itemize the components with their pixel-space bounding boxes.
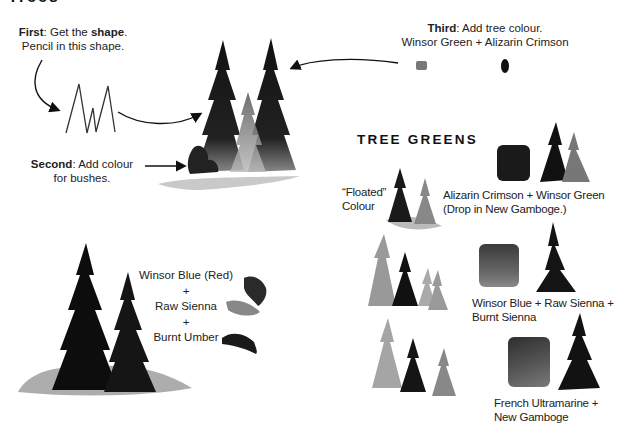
- swatch-3-caption: French Ultramarine + New Gamboge: [494, 396, 623, 424]
- swatch-3-caption-line1: French Ultramarine +: [494, 396, 623, 410]
- swatch-3-tree: [0, 0, 623, 430]
- swatch-3-caption-line2: New Gamboge: [494, 410, 623, 424]
